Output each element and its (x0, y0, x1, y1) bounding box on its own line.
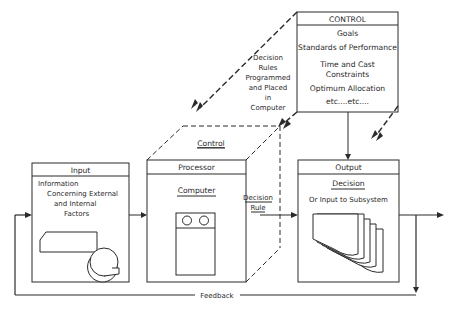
output-title: Output (335, 163, 361, 172)
svg-text:Computer: Computer (251, 104, 286, 112)
input-line-1: Information (38, 180, 79, 188)
decision-rules-note: Decision Rules Programmed and Placed in … (245, 54, 290, 112)
control-to-output-arrow (345, 112, 351, 160)
control-item-standards: Standards of Performance (298, 43, 397, 52)
svg-text:Rules: Rules (259, 64, 278, 72)
control-box: CONTROL Goals Standards of Performance T… (297, 12, 398, 112)
svg-text:Programmed: Programmed (245, 74, 290, 82)
svg-text:and Placed: and Placed (249, 84, 287, 92)
output-exit-arrow (399, 212, 444, 218)
output-box: Output Decision Or Input to Subsystem (298, 160, 399, 282)
processor-subtitle: Computer (178, 186, 217, 195)
input-title: Input (71, 166, 91, 175)
input-line-3: and Internal (54, 200, 96, 208)
arrowhead-down-icon (413, 287, 419, 293)
input-box: Input Information Concerning External an… (32, 163, 129, 282)
computer-tape-unit-icon (176, 213, 215, 275)
feedback-label: Feedback (200, 292, 234, 300)
dashed-arrowhead-icon (371, 130, 378, 139)
decision-rule-label-2: Rule (250, 204, 265, 212)
control-item-etc: etc....etc.... (326, 97, 369, 106)
svg-text:in: in (265, 94, 271, 102)
control-title: CONTROL (329, 15, 367, 24)
arrowhead-right-icon (437, 212, 444, 218)
arrowhead-right-icon (25, 212, 32, 218)
svg-text:Decision: Decision (253, 54, 283, 62)
arrowhead-down-icon (345, 154, 351, 160)
output-subtitle: Decision (332, 179, 365, 188)
control-item-optimum-allocation: Optimum Allocation (310, 84, 386, 93)
input-line-2: Concerning External (47, 190, 118, 198)
control-item-constraints: Constraints (326, 70, 369, 79)
systems-control-diagram: CONTROL Goals Standards of Performance T… (0, 0, 453, 309)
control-item-time-cost: Time and Cast (319, 60, 375, 69)
decision-rule-arrow: Decision Rule (243, 194, 298, 218)
control-to-processor-dashed-arrow (191, 12, 297, 112)
input-to-processor-arrow (129, 212, 147, 218)
arrowhead-right-icon (291, 212, 298, 218)
processor-control-label: Control (197, 139, 224, 148)
input-line-4: Factors (64, 210, 89, 218)
processor-title: Processor (178, 163, 215, 172)
output-description: Or Input to Subsystem (309, 196, 388, 204)
control-to-processor-corner-dashed-arrow (278, 112, 297, 129)
control-item-goals: Goals (337, 29, 358, 38)
arrowhead-right-icon (141, 212, 147, 218)
decision-rule-label-1: Decision (243, 194, 273, 202)
